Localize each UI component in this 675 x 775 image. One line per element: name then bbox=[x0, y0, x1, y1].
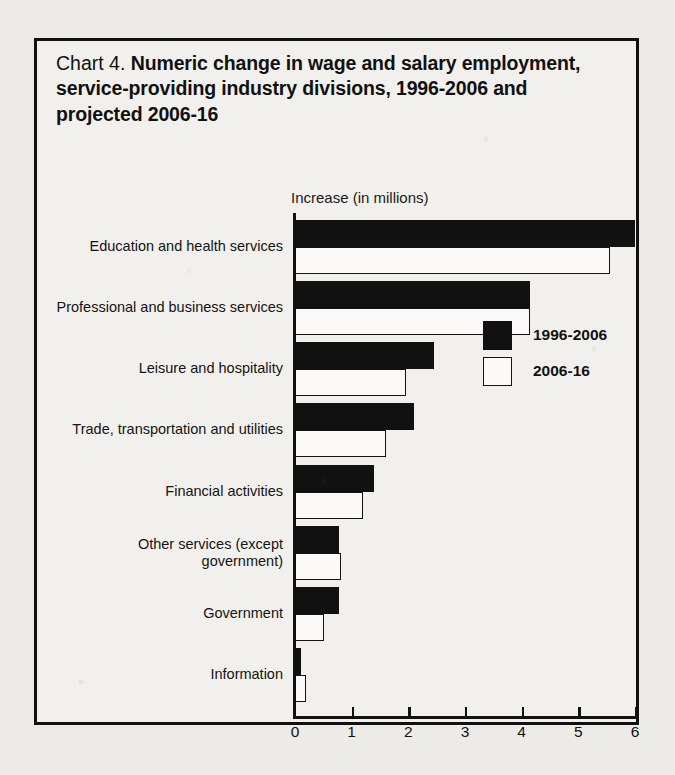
category-label: Information bbox=[37, 667, 283, 684]
bar-series2 bbox=[295, 369, 406, 396]
bar-series2 bbox=[295, 614, 324, 641]
bar-group bbox=[295, 403, 635, 458]
x-axis-tick-label: 1 bbox=[347, 723, 356, 741]
category-label: Other services (exceptgovernment) bbox=[37, 536, 283, 570]
category-axis-labels: Education and health servicesProfessiona… bbox=[37, 216, 289, 706]
category-label-line: Trade, transportation and utilities bbox=[37, 422, 283, 439]
x-axis-tick-label: 4 bbox=[517, 723, 526, 741]
x-axis-tick bbox=[352, 707, 354, 717]
bar-series1 bbox=[295, 342, 434, 369]
bar-group bbox=[295, 587, 635, 642]
category-label-line: Information bbox=[37, 667, 283, 684]
bar-group bbox=[295, 648, 635, 703]
legend-swatch-icon-1996-2006 bbox=[483, 321, 512, 350]
bar-series1 bbox=[295, 403, 414, 430]
category-label: Trade, transportation and utilities bbox=[37, 422, 283, 439]
x-axis-tick-label: 3 bbox=[461, 723, 470, 741]
x-axis-tick bbox=[465, 707, 467, 717]
x-axis-tick-label: 0 bbox=[291, 723, 300, 741]
scanned-page-background: Chart 4. Numeric change in wage and sala… bbox=[0, 0, 675, 775]
category-label: Professional and business services bbox=[37, 299, 283, 316]
legend-label-2006-16: 2006-16 bbox=[533, 362, 590, 380]
legend-swatch-icon-2006-16 bbox=[483, 357, 512, 386]
bar-series1 bbox=[295, 220, 635, 247]
x-axis-tick-label: 5 bbox=[574, 723, 583, 741]
bar-series1 bbox=[295, 526, 339, 553]
plot-area: Education and health servicesProfessiona… bbox=[37, 41, 636, 722]
bar-group bbox=[295, 525, 635, 580]
category-label: Leisure and hospitality bbox=[37, 361, 283, 378]
bar-group bbox=[295, 219, 635, 274]
bar-series2 bbox=[295, 492, 363, 519]
chart-frame: Chart 4. Numeric change in wage and sala… bbox=[34, 38, 639, 725]
bar-series2 bbox=[295, 247, 610, 274]
x-axis-tick-label: 6 bbox=[631, 723, 640, 741]
bar-series1 bbox=[295, 281, 530, 308]
category-label-line: Education and health services bbox=[37, 238, 283, 255]
bar-series1 bbox=[295, 465, 374, 492]
bars-area bbox=[295, 216, 635, 706]
x-axis-tick-label: 2 bbox=[404, 723, 413, 741]
bar-series2 bbox=[295, 430, 386, 457]
bar-series2 bbox=[295, 675, 306, 702]
x-axis-tick bbox=[578, 707, 580, 717]
legend-item-1996-2006: 1996-2006 bbox=[483, 317, 623, 353]
category-label-line: Financial activities bbox=[37, 483, 283, 500]
y-axis-line bbox=[293, 213, 296, 719]
category-label: Education and health services bbox=[37, 238, 283, 255]
legend-item-2006-16: 2006-16 bbox=[483, 353, 623, 389]
category-label-line: Leisure and hospitality bbox=[37, 361, 283, 378]
category-label: Financial activities bbox=[37, 483, 283, 500]
category-label-line: Government bbox=[37, 606, 283, 623]
bar-series2 bbox=[295, 553, 341, 580]
legend-label-1996-2006: 1996-2006 bbox=[533, 326, 607, 344]
category-label: Government bbox=[37, 606, 283, 623]
chart-legend: 1996-2006 2006-16 bbox=[483, 317, 623, 389]
x-axis-tick bbox=[408, 707, 410, 717]
category-label-line: government) bbox=[37, 553, 283, 570]
x-axis-tick bbox=[635, 707, 637, 717]
category-label-line: Professional and business services bbox=[37, 299, 283, 316]
bar-series1 bbox=[295, 587, 339, 614]
category-label-line: Other services (except bbox=[37, 536, 283, 553]
x-axis-tick bbox=[522, 707, 524, 717]
bar-group bbox=[295, 464, 635, 519]
